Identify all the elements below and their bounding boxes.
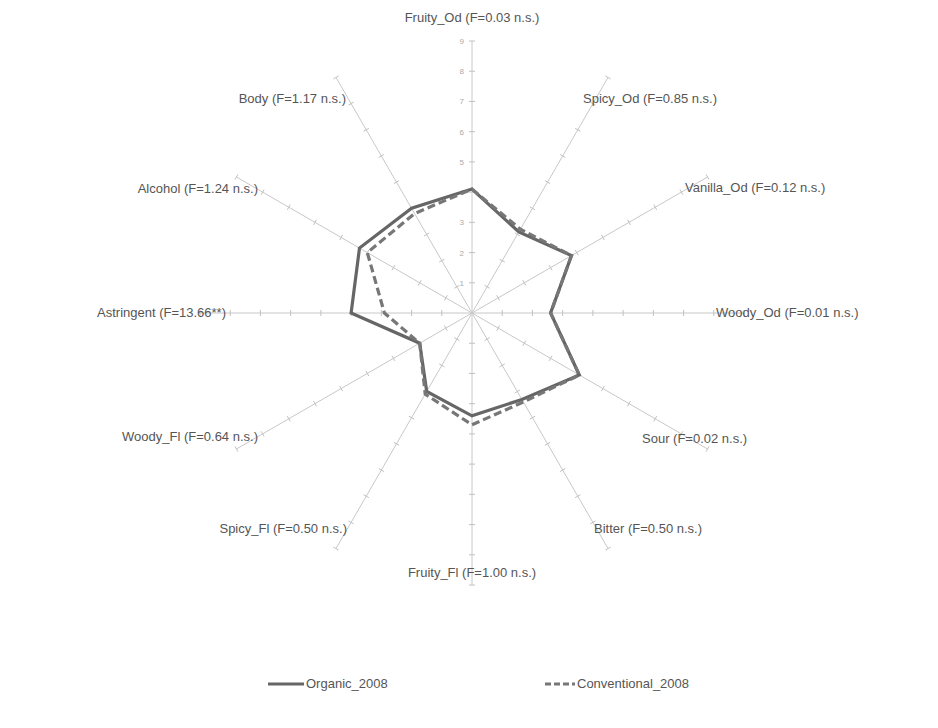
axis-label-fruity-fl: Fruity_Fl (F=1.00 n.s.) (408, 565, 536, 580)
axis-spoke (472, 313, 608, 549)
legend-label: Conventional_2008 (577, 676, 689, 691)
axis-label-bitter: Bitter (F=0.50 n.s.) (594, 521, 702, 536)
axis-label-woody-od: Woody_Od (F=0.01 n.s.) (716, 305, 858, 320)
axis-labels: Fruity_Od (F=0.03 n.s.)Spicy_Od (F=0.85 … (97, 10, 858, 580)
radial-tick-label: 7 (460, 97, 465, 106)
axis-spoke (472, 77, 608, 313)
axis-label-alcohol: Alcohol (F=1.24 n.s.) (138, 181, 258, 196)
axis-spoke (336, 313, 472, 549)
axis-label-astringent: Astringent (F=13.66**) (97, 305, 226, 320)
radial-tick-label: 3 (460, 218, 465, 227)
legend-item-organic: Organic_2008 (268, 676, 388, 691)
radial-tick-label: 6 (460, 128, 465, 137)
radar-axes (200, 41, 744, 585)
axis-spoke (472, 177, 708, 313)
radial-tick-labels: 123456789 (460, 37, 465, 288)
radial-tick-label: 9 (460, 37, 465, 46)
radial-tick-label: 5 (460, 158, 465, 167)
axis-label-woody-fl: Woody_Fl (F=0.64 n.s.) (122, 429, 258, 444)
legend-item-conventional: Conventional_2008 (545, 676, 689, 691)
axis-label-fruity-od: Fruity_Od (F=0.03 n.s.) (405, 10, 540, 25)
axis-label-spicy-od: Spicy_Od (F=0.85 n.s.) (583, 91, 717, 106)
axis-spoke (472, 313, 708, 449)
axis-spoke (236, 313, 472, 449)
radial-tick-label: 8 (460, 67, 465, 76)
radar-chart: 123456789 Fruity_Od (F=0.03 n.s.)Spicy_O… (0, 0, 938, 728)
legend: Organic_2008 Conventional_2008 (0, 676, 938, 696)
radar-series (351, 189, 579, 425)
solid-line-icon (268, 679, 304, 689)
axis-label-sour: Sour (F=0.02 n.s.) (642, 431, 747, 446)
axis-label-spicy-fl: Spicy_Fl (F=0.50 n.s.) (219, 521, 347, 536)
axis-label-body: Body (F=1.17 n.s.) (239, 91, 346, 106)
radial-tick-label: 2 (460, 249, 465, 258)
dashed-line-icon (545, 679, 575, 689)
axis-label-vanilla-od: Vanilla_Od (F=0.12 n.s.) (685, 180, 825, 195)
radial-tick-label: 1 (460, 279, 465, 288)
series-organic-2008 (351, 189, 579, 416)
legend-label: Organic_2008 (306, 676, 388, 691)
